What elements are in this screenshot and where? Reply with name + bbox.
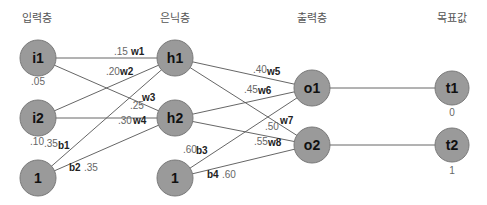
- node-h1: h1: [157, 40, 193, 76]
- svg-text:.15: .15: [114, 46, 128, 57]
- svg-text:w1: w1: [130, 46, 145, 57]
- svg-text:t2: t2: [446, 137, 459, 153]
- svg-text:.35: .35: [84, 162, 98, 173]
- svg-text:i1: i1: [32, 50, 44, 66]
- svg-text:b4: b4: [207, 169, 219, 180]
- node-t2-value: 1: [449, 165, 455, 176]
- weight-label-w5: .40 w5: [253, 64, 281, 77]
- svg-text:.35: .35: [44, 138, 58, 149]
- layer-title-hidden: 은닉층: [160, 12, 190, 25]
- bias-label-b1: .35 b1: [44, 138, 70, 151]
- svg-text:.30: .30: [118, 115, 132, 126]
- svg-text:t1: t1: [446, 80, 459, 96]
- node-i2: i2: [20, 100, 56, 136]
- neural-network-diagram: 입력층 은닉층 출력층 목표값 .15 w1 .20 w2 w3 .25 .30…: [0, 0, 487, 205]
- node-bias-input: 1: [20, 160, 56, 196]
- svg-text:b3: b3: [196, 145, 208, 156]
- svg-text:.45: .45: [244, 84, 258, 95]
- svg-text:h2: h2: [167, 110, 184, 126]
- bias-label-b4: b4 .60: [207, 169, 236, 180]
- svg-text:.25: .25: [130, 100, 144, 111]
- svg-text:o2: o2: [304, 137, 321, 153]
- svg-text:w6: w6: [257, 85, 272, 96]
- svg-text:.60: .60: [222, 169, 236, 180]
- svg-text:.55: .55: [254, 136, 268, 147]
- svg-text:h1: h1: [167, 50, 184, 66]
- layer-title-output: 출력층: [297, 12, 327, 25]
- node-o2: o2: [294, 127, 330, 163]
- weight-label-w6: .45 w6: [244, 84, 272, 96]
- node-t1: t1: [435, 71, 469, 105]
- svg-text:.40: .40: [253, 64, 267, 75]
- svg-text:w7: w7: [279, 115, 294, 126]
- svg-text:i2: i2: [32, 110, 44, 126]
- svg-text:o1: o1: [304, 80, 321, 96]
- svg-text:.20: .20: [106, 66, 120, 77]
- node-bias-hidden: 1: [157, 160, 193, 196]
- svg-text:1: 1: [34, 170, 42, 186]
- node-i1-value: .05: [31, 76, 45, 87]
- layer-title-input: 입력층: [22, 12, 52, 25]
- node-t1-value: 0: [449, 107, 455, 118]
- svg-text:w5: w5: [266, 66, 281, 77]
- node-i1: i1: [20, 40, 56, 76]
- weight-label-w2: .20 w2: [106, 66, 134, 77]
- node-i2-value: .10: [30, 136, 44, 147]
- svg-text:w4: w4: [132, 115, 147, 126]
- weight-label-w4: .30 w4: [118, 115, 147, 126]
- svg-text:1: 1: [171, 170, 179, 186]
- svg-text:b2: b2: [69, 162, 81, 173]
- svg-text:.50: .50: [265, 121, 279, 132]
- node-t2: t2: [435, 128, 469, 162]
- weight-label-w1: .15 w1: [114, 46, 145, 57]
- svg-text:w8: w8: [267, 137, 282, 148]
- layer-title-target: 목표값: [437, 12, 467, 25]
- weight-label-w8: .55 w8: [254, 136, 282, 148]
- node-h2: h2: [157, 100, 193, 136]
- bias-label-b2: b2 .35: [69, 162, 98, 173]
- node-o1: o1: [294, 70, 330, 106]
- bias-label-b3: .60 b3: [183, 144, 208, 156]
- svg-text:w2: w2: [119, 66, 134, 77]
- svg-text:b1: b1: [58, 140, 70, 151]
